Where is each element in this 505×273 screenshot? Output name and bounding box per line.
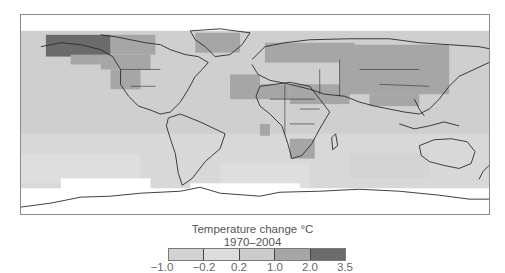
legend-tick: −1.0	[151, 261, 174, 273]
legend-bin-1	[169, 249, 204, 260]
legend-period: 1970–2004	[0, 236, 505, 248]
legend-tick: −0.2	[193, 261, 216, 273]
legend-bin-3	[240, 249, 275, 260]
legend-tick: 0.2	[231, 261, 247, 273]
temperature-change-map	[21, 15, 489, 214]
legend-bin-5	[311, 249, 345, 260]
legend-color-bar	[168, 248, 346, 261]
legend-tick: 2.0	[302, 261, 318, 273]
legend-bin-4	[275, 249, 310, 260]
legend-bin-2	[204, 249, 239, 260]
legend-tick: 1.0	[267, 261, 283, 273]
world-map	[20, 14, 490, 215]
legend-tick: 3.5	[337, 261, 353, 273]
legend-title: Temperature change °C	[0, 223, 505, 235]
